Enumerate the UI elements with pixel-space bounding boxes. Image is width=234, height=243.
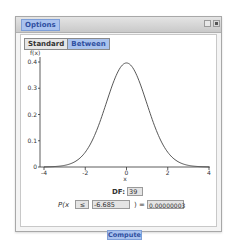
y-ticks: 00.10.20.30.4 [27, 58, 40, 170]
density-curve [44, 63, 209, 167]
close-paren-equals: ) = [134, 201, 145, 209]
svg-text:2: 2 [166, 169, 170, 176]
options-button[interactable]: Options [21, 19, 60, 31]
operator-select[interactable]: ≤ [75, 200, 89, 209]
svg-text:-2: -2 [82, 169, 88, 176]
equals-sign: = [139, 201, 145, 209]
maximize-icon[interactable] [204, 20, 211, 27]
svg-text:-4: -4 [41, 169, 47, 176]
df-label: DF: [112, 188, 125, 196]
options-window: Options Standard Between f(x) 00.10.20.3… [15, 16, 222, 232]
x-axis-label: x [123, 175, 127, 182]
svg-text:0.2: 0.2 [27, 111, 37, 118]
close-paren: ) [134, 201, 137, 209]
p-x: x [65, 201, 69, 209]
content-panel: Standard Between f(x) 00.10.20.30.4 -4-2… [20, 34, 217, 227]
p-open: P( [58, 201, 65, 209]
df-input[interactable]: 39 [127, 187, 143, 196]
x-value-input[interactable]: -6.685 [92, 200, 130, 209]
svg-text:0.3: 0.3 [27, 84, 37, 91]
compute-button[interactable]: Compute [107, 230, 142, 240]
y-axis-label: f(x) [30, 49, 40, 56]
result-field: 0.00000003 [147, 200, 184, 209]
svg-text:0.4: 0.4 [27, 58, 37, 65]
close-icon[interactable] [213, 20, 220, 27]
svg-text:0: 0 [33, 163, 37, 170]
title-bar[interactable]: Options [16, 17, 221, 33]
density-plot: f(x) 00.10.20.30.4 -4-2024 x [21, 35, 218, 205]
svg-text:0.1: 0.1 [27, 137, 37, 144]
svg-text:4: 4 [207, 169, 211, 176]
p-label: P(x [58, 201, 69, 209]
